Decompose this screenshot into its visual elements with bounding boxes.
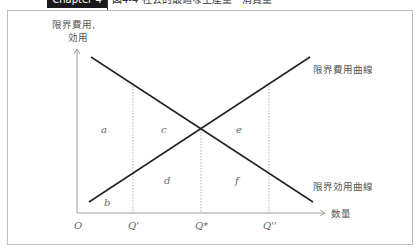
q-double-prime-label: Q'' xyxy=(263,220,277,231)
y-axis-label-line1: 限界費用, xyxy=(52,19,95,30)
x-axis-label: 数量 xyxy=(331,208,351,219)
region-d: d xyxy=(164,175,170,186)
supply-demand-diagram: 限界費用, 効用 限界費用曲線 限界効用曲線 数量 O Q' Q* Q'' a … xyxy=(0,0,417,249)
q-prime-label: Q' xyxy=(128,220,139,231)
marginal-cost-label: 限界費用曲線 xyxy=(313,64,373,75)
region-f: f xyxy=(234,175,241,186)
region-b: b xyxy=(104,197,110,208)
y-axis-label-line2: 効用 xyxy=(68,32,88,43)
origin-label: O xyxy=(74,220,82,231)
marginal-utility-curve xyxy=(91,57,313,202)
region-a: a xyxy=(101,124,107,135)
region-c: c xyxy=(161,124,167,135)
q-star-label: Q* xyxy=(195,220,208,231)
region-e: e xyxy=(236,124,242,135)
marginal-utility-label: 限界効用曲線 xyxy=(313,181,373,192)
marginal-cost-curve xyxy=(89,57,310,202)
